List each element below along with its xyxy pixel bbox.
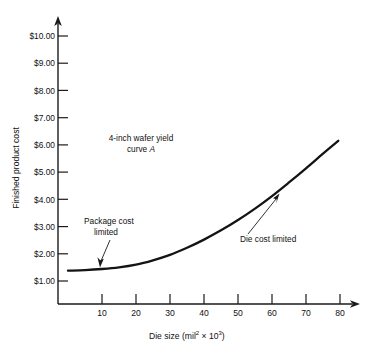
package-cost-line2: limited: [94, 227, 118, 237]
y-tick-label: $10.00: [29, 31, 55, 41]
annotation-package-cost-limited: Package cost limited: [84, 216, 135, 268]
x-tick-label: 50: [233, 308, 243, 318]
y-tick-label: $7.00: [34, 113, 55, 123]
package-cost-leader-line: [101, 240, 110, 261]
y-axis-tick-labels: $10.00 $9.00 $8.00 $7.00 $6.00 $5.00 $4.…: [29, 31, 55, 286]
x-axis-ticks: [102, 294, 340, 304]
curve-label-line2: curve A: [127, 144, 156, 154]
y-tick-label: $5.00: [34, 167, 55, 177]
package-cost-arrowhead: [97, 257, 103, 267]
y-tick-label: $3.00: [34, 222, 55, 232]
x-tick-label: 70: [301, 308, 311, 318]
x-tick-label: 60: [267, 308, 277, 318]
y-tick-label: $2.00: [34, 249, 55, 259]
y-tick-label: $8.00: [34, 86, 55, 96]
x-tick-label: 80: [335, 308, 345, 318]
package-cost-line1: Package cost: [84, 216, 135, 226]
y-tick-label: $4.00: [34, 195, 55, 205]
yield-curve-A: [68, 141, 338, 271]
x-axis-tick-labels: 10 20 30 40 50 60 70 80: [97, 308, 345, 318]
y-axis: [54, 16, 62, 304]
chart-figure: $10.00 $9.00 $8.00 $7.00 $6.00 $5.00 $4.…: [0, 0, 375, 349]
x-tick-label: 40: [199, 308, 209, 318]
y-axis-ticks: [58, 36, 68, 281]
x-tick-label: 30: [165, 308, 175, 318]
x-axis: [58, 300, 360, 308]
cost-vs-die-size-chart: $10.00 $9.00 $8.00 $7.00 $6.00 $5.00 $4.…: [0, 0, 375, 349]
y-tick-label: $6.00: [34, 140, 55, 150]
y-axis-title: Finished product cost: [11, 127, 21, 209]
x-axis-title-tail: ): [222, 331, 225, 341]
x-tick-label: 10: [97, 308, 107, 318]
x-axis-title-lead: Die size (mil: [149, 331, 196, 341]
x-axis-title-mid: × 10: [199, 331, 219, 341]
x-tick-label: 20: [131, 308, 141, 318]
y-tick-label: $1.00: [34, 276, 55, 286]
x-axis-title: Die size (mil2 × 103): [149, 330, 225, 341]
y-tick-label: $9.00: [34, 58, 55, 68]
annotation-die-cost-limited: Die cost limited: [240, 194, 297, 245]
curve-label-italic-a: A: [149, 144, 156, 154]
die-cost-label: Die cost limited: [240, 234, 297, 244]
curve-label-lead: curve: [127, 144, 150, 154]
curve-label-line1: 4-inch wafer yield: [109, 133, 174, 143]
annotation-curve-label: 4-inch wafer yield curve A: [109, 133, 174, 154]
